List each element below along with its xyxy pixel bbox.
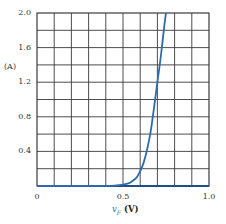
- x-tick-label: 1.0: [197, 192, 221, 201]
- x-tick-label: 0: [25, 192, 49, 201]
- x-axis-variable-subscript: F: [117, 209, 121, 216]
- y-tick-label: 2.0: [7, 8, 31, 17]
- y-tick-label: 0.8: [7, 112, 31, 121]
- diode-iv-chart: [0, 0, 226, 224]
- grid-lines: [37, 13, 209, 186]
- y-tick-label: 1.6: [7, 43, 31, 52]
- x-tick-label: 0.5: [111, 192, 135, 201]
- x-axis-label: vF (V): [112, 204, 139, 216]
- x-axis-unit: (V): [124, 204, 139, 214]
- y-axis-unit-label: (A): [4, 62, 16, 71]
- y-tick-label: 1.2: [7, 77, 31, 86]
- y-tick-label: 0.4: [7, 146, 31, 155]
